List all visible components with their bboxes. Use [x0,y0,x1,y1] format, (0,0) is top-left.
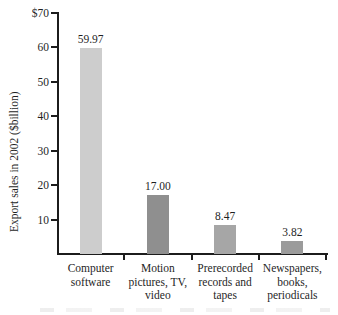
bar-4 [281,241,303,254]
bar-value-label-2: 17.00 [133,180,183,193]
y-axis-line [57,12,59,255]
y-tick-label-20: 20 [19,179,49,191]
x-tick-4 [325,255,327,260]
bar-3 [214,225,236,254]
cropped-caption-remnant [40,308,330,312]
y-tick-10 [51,219,57,221]
bar-chart: Export sales in 2002 ($billion) 10203040… [0,0,338,315]
category-label-4: Newspapers, books, periodicals [259,262,326,303]
y-tick-30 [51,150,57,152]
category-label-1: Computer software [57,262,124,289]
category-label-2: Motion pictures, TV, video [124,262,191,303]
y-tick-label-10: 10 [19,214,49,226]
x-tick-1 [123,255,125,260]
y-tick-60 [51,46,57,48]
y-tick-40 [51,115,57,117]
y-tick-50 [51,81,57,83]
y-tick-label-30: 30 [19,145,49,157]
x-tick-2 [191,255,193,260]
y-tick-70 [51,12,57,14]
bar-2 [147,195,169,254]
bar-value-label-1: 59.97 [66,33,116,46]
y-tick-label-50: 50 [19,76,49,88]
y-tick-label-60: 60 [19,41,49,53]
bar-1 [80,48,102,254]
bar-value-label-4: 3.82 [267,226,317,239]
y-tick-20 [51,184,57,186]
bar-value-label-3: 8.47 [200,210,250,223]
y-tick-label-70: $70 [19,7,49,19]
category-label-3: Prerecorded records and tapes [192,262,259,303]
y-tick-label-40: 40 [19,110,49,122]
x-tick-3 [258,255,260,260]
